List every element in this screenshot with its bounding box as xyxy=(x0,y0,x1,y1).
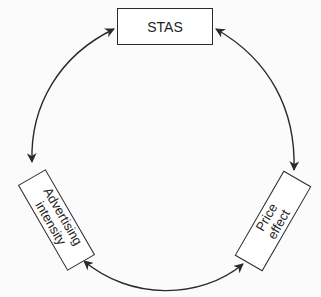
arrow-stas-price xyxy=(216,29,294,170)
node-stas-label: STAS xyxy=(147,20,183,34)
node-stas: STAS xyxy=(117,8,213,45)
arrow-stas-advertising xyxy=(32,29,114,162)
diagram-canvas: STAS Advertising intensity Price effect xyxy=(0,0,321,297)
arrow-advertising-price xyxy=(84,261,243,291)
